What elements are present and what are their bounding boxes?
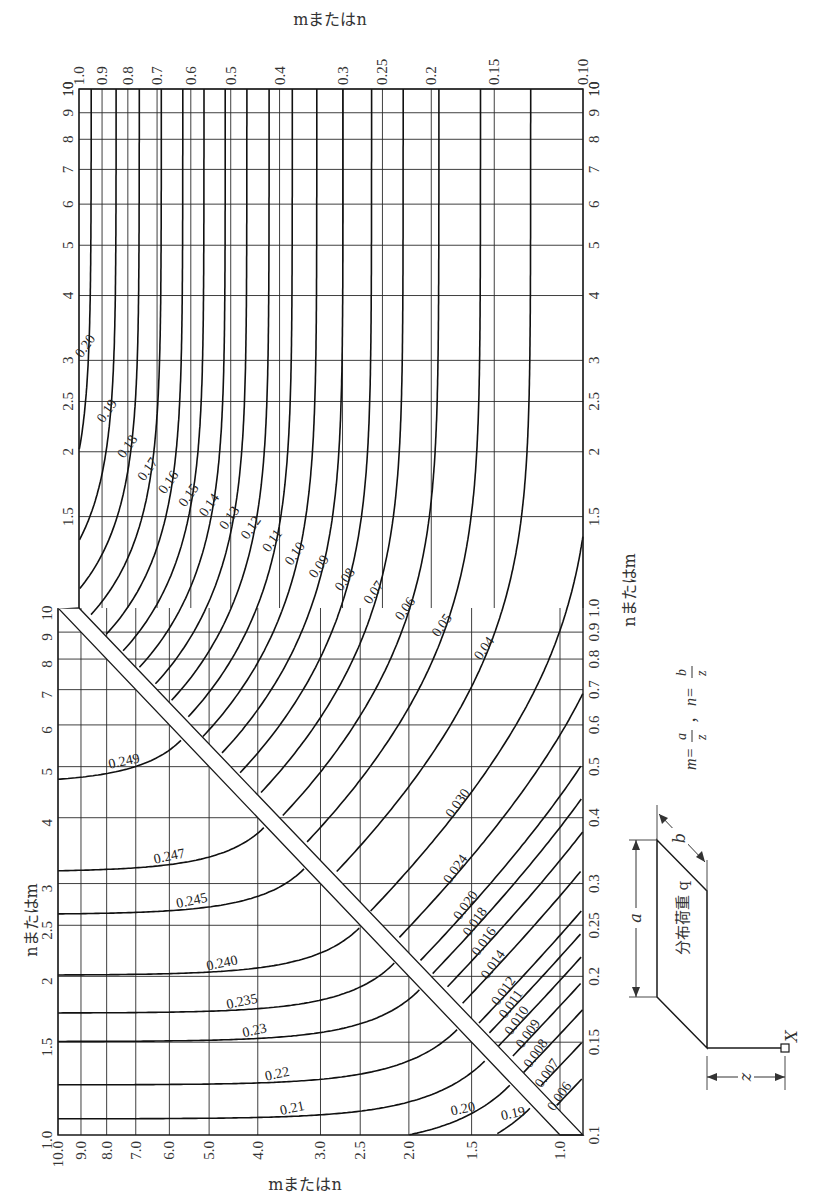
tick-label: 9.0 bbox=[73, 1141, 89, 1160]
svg-text:，: ， bbox=[682, 708, 699, 724]
contour-curve bbox=[106, 89, 183, 634]
contour-curve bbox=[222, 89, 343, 753]
tick-label: 7 bbox=[39, 690, 55, 698]
tick-label: 1.0 bbox=[552, 1141, 568, 1160]
contour-label: 0.14 bbox=[196, 491, 222, 520]
tick-label: 7.0 bbox=[128, 1141, 144, 1160]
tick-label: 2 bbox=[39, 978, 55, 986]
point-x-label: X bbox=[782, 1030, 801, 1044]
tick-label: 2 bbox=[586, 448, 602, 456]
contour-curve bbox=[79, 89, 91, 449]
tick-label: 0.1 bbox=[586, 1126, 602, 1145]
tick-label: 6.0 bbox=[161, 1141, 177, 1160]
tick-label: 9 bbox=[39, 633, 55, 641]
tick-label: 3 bbox=[60, 357, 76, 365]
tick-label: 2.5 bbox=[60, 392, 76, 411]
tick-label: 8 bbox=[39, 660, 55, 668]
tick-label: 0.6 bbox=[183, 66, 199, 85]
contour-label: 0.21 bbox=[279, 1098, 306, 1118]
tick-label: 7 bbox=[60, 165, 76, 173]
tick-label: 1.5 bbox=[39, 1038, 55, 1057]
svg-text:b: b bbox=[674, 669, 689, 676]
load-label: 分布荷重 q bbox=[674, 880, 692, 955]
contour-label: 0.16 bbox=[155, 468, 181, 497]
svg-text:n=: n= bbox=[682, 687, 699, 706]
contour-curve bbox=[371, 537, 583, 911]
tick-label: 8 bbox=[60, 136, 76, 144]
tick-label: 0.5 bbox=[223, 66, 239, 85]
bottom-axis-title: mまたはn bbox=[268, 1175, 341, 1194]
contour-curve bbox=[307, 89, 480, 842]
contour-label: 0.23 bbox=[241, 1020, 268, 1040]
tick-label: 5 bbox=[39, 768, 55, 776]
tick-label: 0.10 bbox=[575, 59, 591, 85]
tick-label: 0.9 bbox=[586, 623, 602, 642]
dim-b-label: b bbox=[670, 833, 689, 843]
contour-label: 0.05 bbox=[429, 611, 455, 640]
tick-label: 10 bbox=[586, 82, 602, 97]
contour-curve bbox=[123, 89, 204, 651]
svg-text:z: z bbox=[694, 670, 709, 677]
tick-label: 0.7 bbox=[586, 680, 602, 699]
tick-label: 0.7 bbox=[149, 66, 165, 85]
tick-label: 0.25 bbox=[586, 912, 602, 938]
tick-label: 0.9 bbox=[94, 66, 110, 85]
contour-curve bbox=[261, 89, 403, 793]
tick-label: 4.0 bbox=[250, 1141, 266, 1160]
right-axis-title: nまたはm bbox=[620, 553, 639, 626]
tick-label: 0.4 bbox=[272, 66, 288, 85]
tick-label: 9 bbox=[60, 109, 76, 117]
contour-label: 0.030 bbox=[442, 786, 472, 820]
tick-label: 3.0 bbox=[312, 1141, 328, 1160]
tick-label: 0.5 bbox=[586, 757, 602, 776]
svg-text:m=: m= bbox=[682, 748, 699, 770]
top-axis-title: mまたはn bbox=[293, 10, 366, 29]
tick-label: 5.0 bbox=[201, 1141, 217, 1160]
tick-label: 6 bbox=[39, 726, 55, 734]
contour-label: 0.12 bbox=[238, 513, 264, 542]
tick-label: 2.5 bbox=[586, 392, 602, 411]
tick-label: 5 bbox=[60, 241, 76, 249]
load-diagram: X a b z 分布荷重 q bbox=[626, 805, 801, 1090]
tick-label: 5 bbox=[586, 241, 602, 249]
tick-label: 0.15 bbox=[486, 59, 502, 85]
tick-label: 2.5 bbox=[352, 1141, 368, 1160]
formula-m-n: m= a z ， n= b z bbox=[674, 666, 709, 770]
contour-curve bbox=[91, 89, 161, 615]
contour-curve bbox=[172, 89, 270, 700]
contour-label: 0.08 bbox=[332, 565, 358, 594]
svg-text:a: a bbox=[674, 733, 689, 740]
tick-label: 1.5 bbox=[60, 507, 76, 526]
tick-label: 4 bbox=[60, 291, 76, 299]
contour-curve bbox=[240, 89, 372, 773]
tick-label: 0.25 bbox=[374, 59, 390, 85]
tick-label: 3 bbox=[586, 357, 602, 365]
contour-label: 0.15 bbox=[175, 481, 201, 510]
tick-label: 9 bbox=[586, 109, 602, 117]
dim-z-label: z bbox=[736, 1072, 755, 1082]
contour-label: 0.06 bbox=[392, 594, 418, 623]
contour-label: 0.024 bbox=[440, 852, 470, 886]
tick-label: 0.4 bbox=[586, 808, 602, 827]
tick-label: 0.3 bbox=[586, 874, 602, 893]
contour-label: 0.20 bbox=[72, 332, 98, 361]
svg-text:z: z bbox=[694, 734, 709, 741]
tick-label: 1.0 bbox=[39, 1131, 55, 1150]
contour-curve bbox=[203, 89, 317, 737]
contour-label: 0.18 bbox=[114, 432, 140, 461]
contour-label: 0.09 bbox=[306, 552, 332, 581]
tick-label: 0.8 bbox=[120, 66, 136, 85]
tick-label: 0.6 bbox=[586, 715, 602, 734]
tick-label: 6 bbox=[60, 200, 76, 208]
contour-label: 0.13 bbox=[216, 504, 242, 533]
contour-label: 0.22 bbox=[264, 1064, 291, 1084]
tick-label: 4 bbox=[586, 291, 602, 299]
contour-curve bbox=[283, 89, 439, 816]
tick-label: 2.0 bbox=[401, 1141, 417, 1160]
dim-a-label: a bbox=[626, 913, 645, 923]
tick-label: 1.5 bbox=[586, 507, 602, 526]
contour-label: 0.006 bbox=[544, 1079, 574, 1113]
tick-label: 10 bbox=[39, 606, 55, 621]
contour-label: 0.19 bbox=[500, 1103, 527, 1123]
diagonal-divider-band bbox=[56, 607, 583, 1135]
